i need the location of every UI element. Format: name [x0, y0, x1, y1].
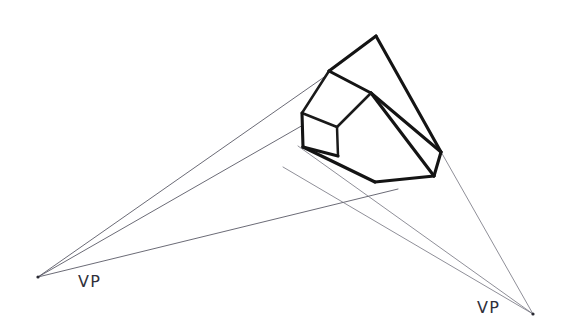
vp-right-label: VP	[477, 298, 500, 317]
guide-line-right-lower	[283, 167, 533, 314]
edge-smallface-topleft-to-bottomleft	[302, 113, 303, 147]
guide-line-left-middle	[38, 101, 345, 277]
vanishing-point-markers	[36, 275, 534, 315]
guide-line-right-upper	[440, 150, 533, 314]
vp-left-point	[36, 275, 39, 278]
edge-smallface-mid-vertical	[337, 127, 338, 156]
construction-guide-lines	[38, 66, 533, 314]
guide-line-left-upper	[38, 66, 340, 277]
two-point-perspective-diagram: VP VP	[0, 0, 570, 336]
vp-left-label: VP	[78, 272, 101, 291]
guide-line-left-lower	[38, 189, 398, 277]
vp-right-point	[531, 312, 534, 315]
drawing-canvas: VP VP	[0, 0, 570, 336]
